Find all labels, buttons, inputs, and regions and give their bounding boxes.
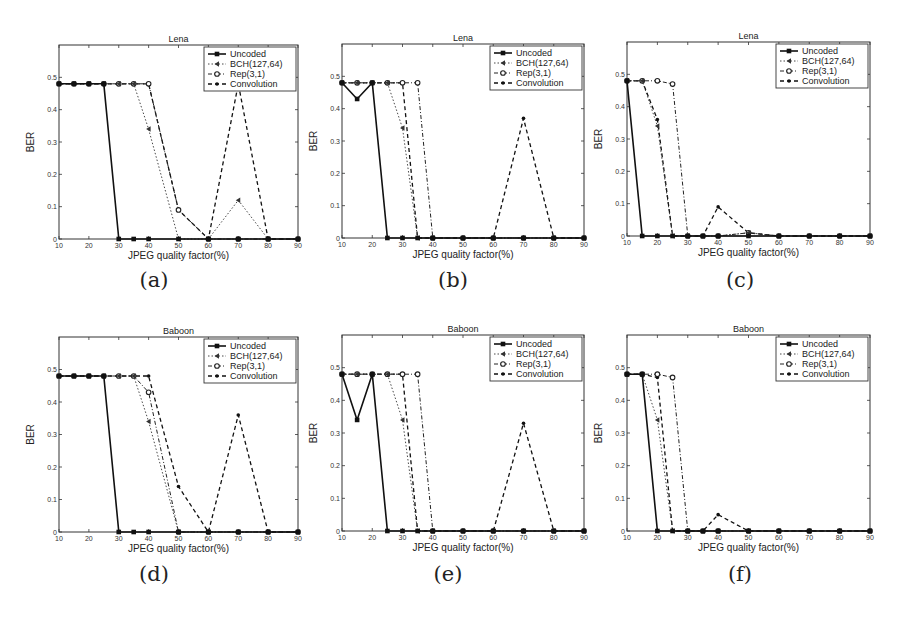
series-uncoded	[625, 372, 873, 533]
marker-square-icon	[640, 372, 645, 377]
marker-square-icon	[625, 372, 630, 377]
marker-square-icon	[685, 529, 690, 534]
marker-square-icon	[670, 529, 675, 534]
x-tick-label: 40	[714, 534, 722, 541]
series-bch-127-64-	[625, 371, 873, 533]
marker-square-icon	[716, 529, 721, 534]
legend-item-label: Rep(3,1)	[802, 359, 837, 369]
marker-circle-icon	[655, 372, 660, 377]
y-tick-label: 0.4	[615, 397, 625, 404]
series-rep-3-1-	[625, 372, 873, 533]
x-tick-label: 90	[866, 534, 874, 541]
x-tick-label: 30	[684, 534, 692, 541]
marker-square-icon	[746, 529, 751, 534]
x-tick-label: 80	[836, 534, 844, 541]
x-axis-label: JPEG quality factor(%)	[698, 542, 799, 553]
y-axis-label: BER	[593, 423, 604, 444]
x-tick-label: 10	[623, 534, 631, 541]
marker-circle-icon	[670, 375, 675, 380]
marker-square-icon	[837, 529, 842, 534]
caption-b: (b)	[423, 268, 483, 292]
caption-a: (a)	[124, 268, 184, 292]
marker-square-icon	[787, 342, 792, 347]
x-tick-label: 20	[653, 534, 661, 541]
marker-triangle-icon	[655, 417, 660, 423]
caption-f: (f)	[710, 562, 770, 586]
marker-circle-icon	[787, 362, 792, 367]
marker-square-icon	[777, 529, 782, 534]
y-tick-label: 0.3	[615, 430, 625, 437]
marker-dot-icon	[787, 372, 791, 376]
marker-square-icon	[655, 529, 660, 534]
y-tick-label: 0.2	[615, 462, 625, 469]
caption-c: (c)	[710, 268, 770, 292]
y-tick-label: 0	[621, 528, 625, 535]
y-tick-label: 0.5	[615, 364, 625, 371]
legend: UncodedBCH(127,64)Rep(3,1)Convolution	[776, 337, 868, 381]
caption-d: (d)	[124, 562, 184, 586]
marker-square-icon	[807, 529, 812, 534]
legend-item-label: BCH(127,64)	[802, 349, 855, 359]
x-tick-label: 60	[775, 534, 783, 541]
marker-square-icon	[868, 529, 873, 534]
y-tick-label: 0.1	[615, 495, 625, 502]
x-tick-label: 50	[745, 534, 753, 541]
marker-square-icon	[701, 529, 706, 534]
marker-dot-icon	[716, 513, 720, 517]
legend-item-label: Uncoded	[802, 339, 838, 349]
series-convolution	[625, 372, 872, 532]
chart-title: Baboon	[733, 324, 764, 334]
caption-e: (e)	[418, 562, 478, 586]
x-tick-label: 70	[805, 534, 813, 541]
legend-item-label: Convolution	[802, 369, 850, 379]
